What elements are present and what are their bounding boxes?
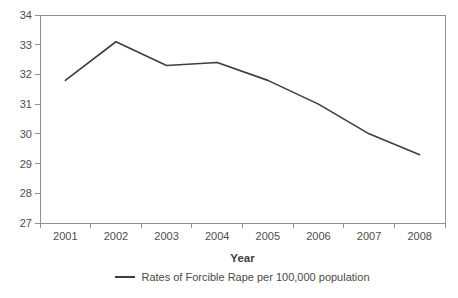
plot-area: 2728293031323334200120022003200420052006… bbox=[0, 0, 458, 250]
legend: Rates of Forcible Rape per 100,000 popul… bbox=[40, 271, 445, 283]
x-axis-title: Year bbox=[40, 252, 445, 264]
y-tick-label: 28 bbox=[20, 187, 32, 199]
legend-label: Rates of Forcible Rape per 100,000 popul… bbox=[141, 271, 369, 283]
y-tick-label: 33 bbox=[20, 39, 32, 51]
plot-frame bbox=[40, 15, 445, 223]
y-tick-label: 27 bbox=[20, 217, 32, 229]
x-tick-label: 2004 bbox=[205, 230, 229, 242]
x-tick-label: 2001 bbox=[53, 230, 77, 242]
x-tick-label: 2007 bbox=[357, 230, 381, 242]
x-tick-label: 2008 bbox=[407, 230, 431, 242]
y-tick-label: 30 bbox=[20, 128, 32, 140]
legend-line-swatch bbox=[115, 276, 135, 278]
x-tick-label: 2005 bbox=[256, 230, 280, 242]
x-tick-label: 2006 bbox=[306, 230, 330, 242]
data-line bbox=[65, 42, 419, 155]
y-tick-label: 32 bbox=[20, 68, 32, 80]
y-tick-label: 29 bbox=[20, 158, 32, 170]
x-tick-label: 2002 bbox=[104, 230, 128, 242]
rape-rate-line-chart: 2728293031323334200120022003200420052006… bbox=[0, 0, 458, 298]
y-tick-label: 34 bbox=[20, 9, 32, 21]
x-tick-label: 2003 bbox=[154, 230, 178, 242]
y-tick-label: 31 bbox=[20, 98, 32, 110]
